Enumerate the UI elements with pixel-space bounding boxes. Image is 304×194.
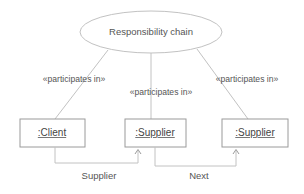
participation-line-client[interactable] (55, 50, 108, 119)
collaboration-ellipse[interactable] (80, 11, 222, 53)
diagram-canvas (0, 0, 304, 194)
uml-collaboration-diagram: Responsibility chain «participates in» «… (0, 0, 304, 194)
association-line-next[interactable] (155, 147, 236, 166)
role-box-client[interactable] (20, 119, 85, 147)
role-box-supplier-mid[interactable] (125, 119, 186, 147)
participation-line-supplier-right[interactable] (197, 49, 248, 119)
association-line-supplier[interactable] (55, 147, 138, 163)
role-box-supplier-right[interactable] (222, 119, 288, 147)
